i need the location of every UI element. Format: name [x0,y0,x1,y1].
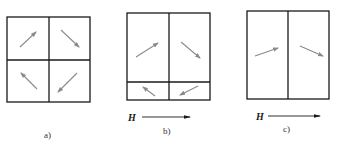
panel-c: H c) [247,11,329,134]
panel-label-b: b) [163,126,171,136]
magnetization-arrow-icon [300,46,323,56]
field-label-h: H [127,112,137,123]
panel-label-a: a) [44,130,51,140]
magnetization-arrow-icon [255,48,278,56]
panel-a: a) [7,17,90,140]
magnetization-arrow-icon [143,87,155,96]
domain-diagram: a) H b) H c) [0,0,337,153]
magnetization-arrow-icon [58,73,77,92]
magnetization-arrow-icon [20,32,36,47]
magnetization-arrow-icon [180,86,198,95]
magnetization-arrow-icon [136,43,158,57]
panel-b: H b) [127,13,210,136]
field-label-h: H [255,111,265,122]
panel-label-c: c) [283,124,290,134]
magnetization-arrow-icon [181,42,200,58]
magnetization-arrow-icon [61,30,79,47]
magnetization-arrow-icon [21,73,37,89]
